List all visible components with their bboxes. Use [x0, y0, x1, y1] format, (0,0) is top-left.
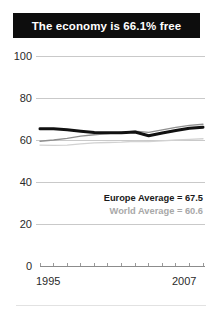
y-tick-80: 80 — [20, 92, 32, 104]
country-score-line — [40, 127, 203, 136]
footer-divider — [16, 305, 206, 306]
chart-page: The economy is 66.1% free 100 80 60 40 2… — [0, 0, 213, 313]
x-tick-end: 2007 — [172, 275, 196, 287]
legend: Europe Average = 67.5 World Average = 60… — [104, 192, 203, 217]
x-tick-start: 1995 — [36, 275, 60, 287]
y-tick-100: 100 — [14, 50, 32, 62]
x-axis — [40, 263, 205, 266]
y-axis-labels: 100 80 60 40 20 0 — [14, 50, 32, 272]
legend-item-europe-average: Europe Average = 67.5 — [104, 192, 203, 205]
y-tick-20: 20 — [20, 218, 32, 230]
y-tick-60: 60 — [20, 134, 32, 146]
legend-item-world-average: World Average = 60.6 — [104, 205, 203, 218]
series-country-score — [40, 127, 203, 136]
plot-area: 100 80 60 40 20 0 1995 2 — [0, 0, 213, 313]
line-chart-svg: 100 80 60 40 20 0 1995 2 — [0, 0, 213, 313]
y-tick-40: 40 — [20, 176, 32, 188]
y-tick-0: 0 — [26, 260, 32, 272]
x-axis-labels: 1995 2007 — [36, 275, 196, 287]
